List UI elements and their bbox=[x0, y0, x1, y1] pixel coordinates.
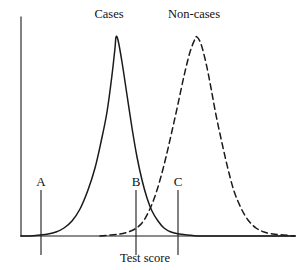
x-axis-label: Test score bbox=[120, 252, 170, 265]
cases-curve-label: Cases bbox=[94, 8, 123, 21]
curves-group bbox=[21, 36, 295, 236]
marker-label-b: B bbox=[132, 175, 141, 188]
non-cases-curve bbox=[100, 37, 295, 236]
plot-canvas bbox=[0, 0, 301, 270]
marker-lines-group bbox=[41, 190, 178, 255]
cases-curve bbox=[21, 36, 295, 236]
marker-label-c: C bbox=[174, 175, 183, 188]
non-cases-curve-label: Non-cases bbox=[168, 8, 220, 21]
distribution-figure: Cases Non-cases A B C Test score bbox=[0, 0, 301, 270]
axis-group bbox=[21, 17, 295, 236]
marker-label-a: A bbox=[36, 175, 45, 188]
